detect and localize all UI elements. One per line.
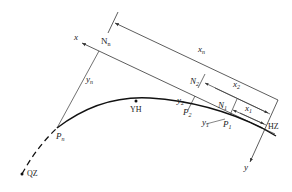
x1-label: x1: [245, 104, 252, 114]
qz-point: [21, 173, 24, 176]
p2-label: P2: [183, 108, 192, 118]
yn-line: [57, 51, 99, 128]
hz-label: HZ: [268, 123, 279, 131]
x-axis-label: x: [74, 33, 78, 42]
diagram-canvas: x y Nn xn yn N2 x2 y2 P2 N1 x1 y1 P1 Pn …: [0, 0, 292, 192]
nn-label: Nn: [101, 37, 111, 47]
xn-label: xn: [198, 45, 205, 55]
x2-label: x2: [233, 80, 240, 90]
curve-solid: [57, 98, 276, 136]
yh-point: [135, 100, 138, 103]
n1-tick: [230, 99, 237, 115]
n2-tick: [198, 74, 205, 88]
yn-label: yn: [86, 75, 93, 85]
yh-label: YH: [130, 106, 142, 114]
pn-label: Pn: [56, 132, 65, 142]
y-axis-line: [250, 100, 278, 162]
y1-label: y1: [202, 118, 209, 128]
n1-label: N1: [218, 101, 227, 111]
xn-dimension-line: [115, 23, 278, 100]
p1-label: P1: [223, 120, 232, 130]
qz-label: QZ: [27, 170, 38, 178]
x1-arrow-end: [240, 113, 264, 124]
curve-dashed: [22, 128, 57, 174]
y2-label: y2: [177, 96, 184, 106]
n2-label: N2: [190, 77, 199, 87]
xn-tick: [108, 12, 118, 33]
diagram-svg: [0, 0, 292, 192]
y-axis-label: y: [244, 163, 248, 172]
